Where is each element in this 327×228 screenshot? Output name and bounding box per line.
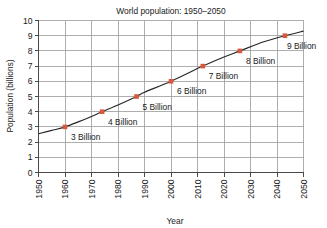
x-axis-tick-label: 1960 (60, 179, 70, 198)
x-axis-tick-label: 2030 (246, 179, 256, 198)
x-axis-tick-label: 1980 (113, 179, 123, 198)
data-point-marker (283, 33, 288, 38)
y-axis-tick-label: 1 (28, 152, 33, 162)
data-point-marker (63, 125, 68, 130)
data-point-marker (134, 94, 139, 99)
data-point-label: 3 Billion (71, 132, 101, 142)
chart-title: World population: 1950–2050 (116, 6, 226, 16)
x-axis-title: Year (167, 216, 184, 226)
y-axis-title: Population (billions) (5, 59, 15, 132)
x-axis-tick-label: 2050 (299, 179, 309, 198)
data-point-label: 7 Billion (209, 71, 239, 81)
world-population-line-chart: World population: 1950–2050 012345678910… (0, 0, 327, 228)
data-point-marker (201, 64, 206, 69)
x-axis-tick-label: 1970 (87, 179, 97, 198)
x-axis-tick-label: 2040 (272, 179, 282, 198)
data-point-label: 9 Billion (287, 41, 317, 51)
y-axis-tick-label: 8 (28, 46, 33, 56)
x-axis-tick-label: 1990 (140, 179, 150, 198)
data-point-label: 4 Billion (108, 117, 138, 127)
data-point-marker (238, 49, 243, 54)
y-axis-tick-label: 5 (28, 92, 33, 102)
data-point-label: 8 Billion (246, 56, 276, 66)
y-axis-tick-label: 7 (28, 61, 33, 71)
x-axis-tick-label: 2010 (193, 179, 203, 198)
y-axis-tick-label: 9 (28, 31, 33, 41)
y-axis-tick-label: 4 (28, 107, 33, 117)
data-point-label: 6 Billion (177, 86, 207, 96)
y-axis-tick-label: 3 (28, 122, 33, 132)
y-axis-tick-label: 2 (28, 137, 33, 147)
chart-container: World population: 1950–2050 012345678910… (0, 0, 327, 228)
y-axis-tick-label: 0 (28, 168, 33, 178)
data-point-label: 5 Billion (143, 102, 173, 112)
x-axis-tick-label: 1950 (34, 179, 44, 198)
data-point-marker (100, 109, 105, 114)
x-axis-tick-label: 2000 (166, 179, 176, 198)
data-point-marker (169, 79, 174, 84)
x-axis-tick-label: 2020 (219, 179, 229, 198)
y-axis-tick-label: 6 (28, 76, 33, 86)
y-axis-tick-label: 10 (23, 16, 33, 26)
